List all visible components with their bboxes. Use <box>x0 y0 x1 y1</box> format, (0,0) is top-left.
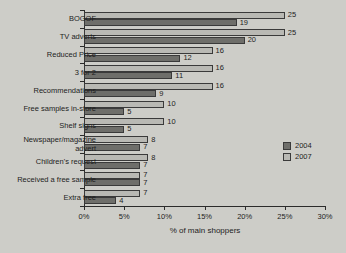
y-axis-label: TV adverts <box>0 32 96 41</box>
bar-2007 <box>84 83 213 90</box>
x-axis-tick-label: 5% <box>119 212 130 221</box>
y-axis-label: Recommendations <box>0 86 96 95</box>
x-axis-tick-label: 0% <box>79 212 90 221</box>
y-axis-tick <box>80 170 84 171</box>
bar-value-2007: 25 <box>288 29 296 37</box>
plot-area: 251925201612161116910510587877774 <box>84 10 325 206</box>
bar-value-2007: 8 <box>151 154 155 162</box>
bar-value-2004: 20 <box>248 36 256 44</box>
bar-value-2007: 16 <box>216 47 224 55</box>
bar-chart: 251925201612161116910510587877774 BOGOFT… <box>0 0 346 253</box>
legend-swatch-2004 <box>283 142 291 150</box>
bar-value-2004: 7 <box>143 179 147 187</box>
y-axis-label: Newspaper/magazine advert <box>0 135 96 153</box>
x-axis-tick <box>205 206 206 210</box>
y-axis-label: Shelf signs <box>0 121 96 130</box>
x-axis-tick-label: 15% <box>197 212 212 221</box>
y-axis-label: BOGOF <box>0 14 96 23</box>
bar-value-2004: 12 <box>183 54 191 62</box>
bar-value-2004: 5 <box>127 108 131 116</box>
y-axis-tick <box>80 153 84 154</box>
x-axis-tick-label: 30% <box>317 212 332 221</box>
y-axis-label: Free samples in-store <box>0 104 96 113</box>
bar-value-2004: 4 <box>119 197 123 205</box>
bar-2007 <box>84 101 164 108</box>
x-axis-tick <box>124 206 125 210</box>
legend-item-2004: 2004 <box>283 141 312 150</box>
x-axis-tick <box>245 206 246 210</box>
legend-label-2007: 2007 <box>295 152 312 161</box>
y-axis-tick <box>80 63 84 64</box>
legend-swatch-2007 <box>283 153 291 161</box>
bar-2007 <box>84 12 285 19</box>
y-axis-label: Received a free sample <box>0 175 96 184</box>
bar-value-2007: 8 <box>151 136 155 144</box>
x-axis-tick <box>84 206 85 210</box>
bar-2004 <box>84 55 180 62</box>
bar-value-2007: 16 <box>216 64 224 72</box>
bar-value-2007: 10 <box>167 100 175 108</box>
x-axis-tick <box>164 206 165 210</box>
y-axis-tick <box>80 99 84 100</box>
bar-2004 <box>84 37 245 44</box>
chart-legend: 2004 2007 <box>283 141 312 163</box>
y-axis-tick <box>80 28 84 29</box>
bar-value-2004: 19 <box>240 19 248 27</box>
y-axis-label: Children's request <box>0 157 96 166</box>
bar-value-2007: 16 <box>216 82 224 90</box>
bar-2007 <box>84 65 213 72</box>
y-axis-label: Extra free <box>0 193 96 202</box>
bar-value-2004: 9 <box>159 90 163 98</box>
y-axis-tick <box>80 46 84 47</box>
y-axis-label: Reduced Price <box>0 50 96 59</box>
y-axis-tick <box>80 81 84 82</box>
y-axis-label: 3 for 2 <box>0 68 96 77</box>
bar-value-2004: 5 <box>127 125 131 133</box>
x-axis-tick-label: 25% <box>277 212 292 221</box>
bar-2007 <box>84 118 164 125</box>
y-axis-tick <box>80 117 84 118</box>
bar-2004 <box>84 72 172 79</box>
bar-value-2004: 11 <box>175 72 183 80</box>
x-axis-tick <box>325 206 326 210</box>
bar-value-2007: 10 <box>167 118 175 126</box>
legend-label-2004: 2004 <box>295 141 312 150</box>
bar-value-2004: 7 <box>143 143 147 151</box>
x-axis-tick-label: 20% <box>237 212 252 221</box>
x-axis-tick <box>285 206 286 210</box>
y-axis-tick <box>80 10 84 11</box>
y-axis-tick <box>80 188 84 189</box>
x-axis-tick-label: 10% <box>157 212 172 221</box>
bar-2007 <box>84 47 213 54</box>
legend-item-2007: 2007 <box>283 152 312 161</box>
bar-value-2007: 25 <box>288 11 296 19</box>
bar-2004 <box>84 19 237 26</box>
x-axis-title: % of main shoppers <box>84 226 326 235</box>
bar-value-2007: 7 <box>143 189 147 197</box>
bar-value-2004: 7 <box>143 161 147 169</box>
